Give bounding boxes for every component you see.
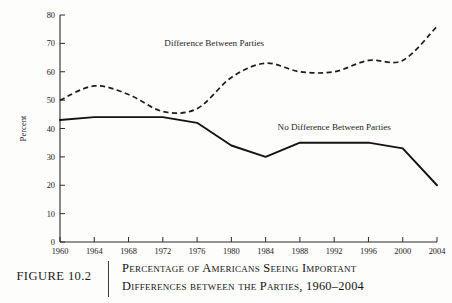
y-axis-title: Percent: [18, 115, 28, 141]
y-tick-label: 30: [47, 153, 55, 162]
chart-annotations: Difference Between PartiesNo Difference …: [164, 38, 391, 132]
series-label-1: Difference Between Parties: [164, 38, 264, 48]
y-tick-label: 60: [47, 68, 55, 77]
x-tick-label: 1984: [257, 247, 275, 256]
chart-plot-area: 01020304050607080 1960196419681972197619…: [0, 0, 452, 258]
y-axis: 01020304050607080: [47, 11, 65, 247]
axis-titles: Percent: [18, 115, 28, 141]
y-tick-label: 0: [51, 238, 55, 247]
x-tick-label: 1964: [86, 247, 104, 256]
figure-container: 01020304050607080 1960196419681972197619…: [0, 0, 452, 303]
line-chart-svg: 01020304050607080 1960196419681972197619…: [0, 0, 452, 258]
x-tick-label: 1972: [154, 247, 171, 256]
y-tick-label: 50: [47, 96, 55, 105]
figure-number-label: FIGURE 10.2: [0, 258, 108, 284]
y-tick-label: 40: [47, 125, 55, 134]
caption-line-1: Percentage of Americans Seeing Important: [122, 260, 452, 278]
x-tick-label: 1996: [360, 247, 377, 256]
x-tick-label: 1968: [120, 247, 137, 256]
x-tick-label: 1988: [292, 247, 309, 256]
series-label-2: No Difference Between Parties: [278, 122, 392, 132]
x-tick-label: 2004: [429, 247, 447, 256]
figure-caption: FIGURE 10.2 Percentage of Americans Seei…: [0, 258, 452, 303]
y-tick-label: 20: [47, 181, 55, 190]
x-tick-label: 1992: [326, 247, 343, 256]
y-tick-label: 80: [47, 11, 55, 20]
x-tick-label: 1976: [189, 247, 206, 256]
x-tick-label: 2000: [394, 247, 411, 256]
y-tick-label: 70: [47, 39, 55, 48]
y-tick-label: 10: [47, 210, 55, 219]
caption-line-2: Differences between the Parties, 1960–20…: [122, 278, 452, 296]
x-tick-label: 1960: [52, 247, 69, 256]
chart-series-group: [60, 26, 437, 185]
x-axis: 1960196419681972197619801984198819921996…: [52, 237, 447, 256]
figure-caption-text: Percentage of Americans Seeing Important…: [109, 258, 452, 295]
x-tick-label: 1980: [223, 247, 240, 256]
